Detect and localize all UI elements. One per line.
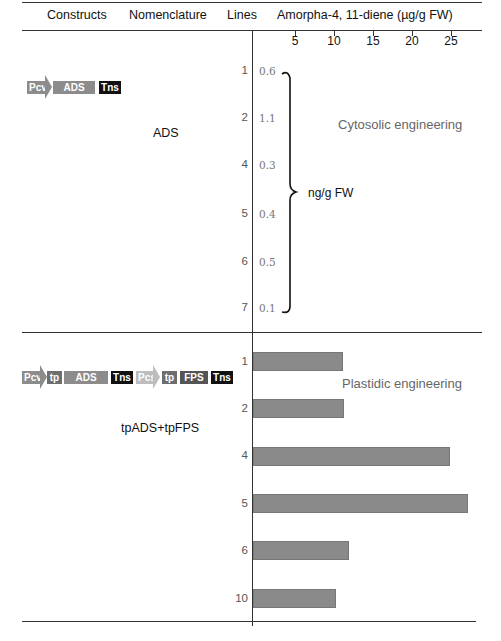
line-label: 5 xyxy=(228,497,248,509)
top-rule xyxy=(22,2,482,3)
curly-brace-icon xyxy=(280,66,300,316)
gene-ads: ADS xyxy=(64,371,108,384)
bar-line-5 xyxy=(253,494,468,513)
line-label: 4 xyxy=(228,158,248,170)
promoter-pcv: Pcv xyxy=(27,81,45,94)
section-divider xyxy=(22,332,482,333)
bar-line-4 xyxy=(253,447,450,466)
transit-peptide-tp: tp xyxy=(162,371,177,384)
bar-line-1 xyxy=(253,352,343,371)
line-label: 4 xyxy=(228,449,248,461)
transit-peptide-tp: tp xyxy=(47,371,62,384)
cytosolic-nomenclature: ADS xyxy=(153,126,179,140)
terminator-tns: Tns xyxy=(111,371,133,384)
line-label: 5 xyxy=(228,207,248,219)
axis-tick-label: 15 xyxy=(361,34,385,48)
value-label: 1.1 xyxy=(259,112,276,124)
terminator-tns: Tns xyxy=(211,371,233,384)
value-label: 0.3 xyxy=(259,159,276,171)
axis-tick-label: 10 xyxy=(322,34,346,48)
line-label: 1 xyxy=(228,355,248,367)
promoter-pcs: Pcs xyxy=(136,371,153,384)
value-label: 0.1 xyxy=(259,302,276,314)
y-axis-line xyxy=(252,30,253,626)
bar-line-6 xyxy=(253,541,349,560)
value-label: 0.5 xyxy=(259,256,276,268)
value-label: 0.4 xyxy=(259,208,276,220)
promoter-pcv: Pcv xyxy=(22,371,40,384)
unit-label: ng/g FW xyxy=(308,186,353,200)
terminator-tns: Tns xyxy=(99,81,121,94)
cytosolic-note: Cytosolic engineering xyxy=(338,117,462,132)
axis-tick-label: 25 xyxy=(439,34,463,48)
line-label: 2 xyxy=(228,402,248,414)
line-label: 7 xyxy=(228,301,248,313)
gene-ads: ADS xyxy=(53,81,95,94)
plastidic-note: Plastidic engineering xyxy=(342,376,462,391)
header-constructs: Constructs xyxy=(47,8,107,22)
bar-line-10 xyxy=(253,589,336,608)
line-label: 6 xyxy=(228,255,248,267)
line-label: 2 xyxy=(228,111,248,123)
header-metric: Amorpha-4, 11-diene (µg/g FW) xyxy=(277,8,453,22)
bottom-rule xyxy=(22,621,476,622)
bar-line-2 xyxy=(253,399,344,418)
axis-tick-label: 20 xyxy=(400,34,424,48)
header-nomenclature: Nomenclature xyxy=(129,8,207,22)
gene-fps: FPS xyxy=(180,371,208,384)
line-label: 10 xyxy=(228,592,248,604)
plastidic-nomenclature: tpADS+tpFPS xyxy=(121,421,199,435)
header-lines: Lines xyxy=(227,8,257,22)
line-label: 1 xyxy=(228,64,248,76)
axis-tick-label: 5 xyxy=(283,34,307,48)
line-label: 6 xyxy=(228,544,248,556)
value-label: 0.6 xyxy=(259,65,276,77)
